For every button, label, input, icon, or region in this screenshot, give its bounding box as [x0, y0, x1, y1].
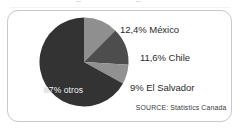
pie-callout-el-salvador: 9% El Salvador [130, 83, 194, 93]
pie-chart: 67% otros [39, 17, 129, 107]
pie-callout-mexico: 12,4% México [120, 25, 179, 35]
pie-chart-figure: 67% otros 12,4% México 11,6% Chile 9% El… [0, 0, 240, 131]
pie-slice-label-otros: 67% otros [44, 86, 83, 95]
top-edge-rule [10, 7, 230, 8]
source-attribution: SOURCE: Statistics Canada [135, 104, 226, 112]
pie-callout-chile: 11,6% Chile [140, 53, 190, 63]
top-edge-artifact [76, 1, 81, 2]
top-edge-artifact [136, 1, 141, 2]
